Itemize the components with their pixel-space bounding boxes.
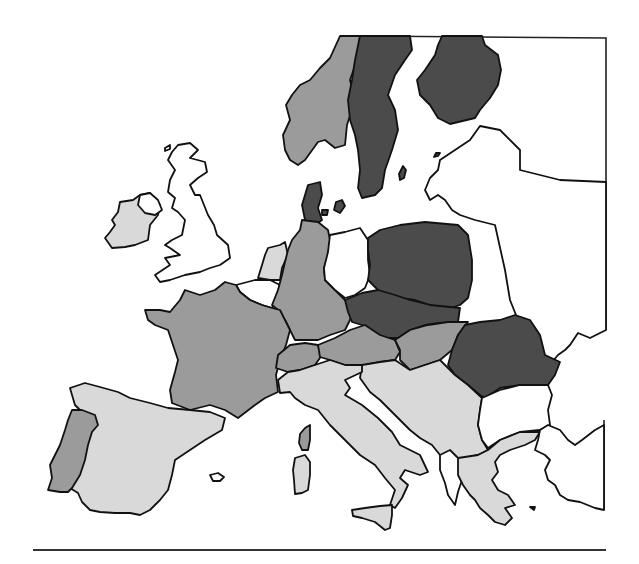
island-crete-fragment — [530, 507, 535, 510]
island-gotland — [399, 166, 406, 180]
country-denmark — [302, 182, 322, 225]
island-hebrides — [165, 145, 170, 151]
europe-choropleth-map — [0, 0, 639, 564]
country-finland — [417, 36, 501, 124]
island-funen — [322, 210, 328, 215]
country-united-kingdom — [155, 143, 230, 282]
island-mallorca — [210, 473, 224, 481]
island-corsica — [299, 425, 310, 450]
island-sicily — [352, 505, 392, 530]
country-turkey — [535, 425, 604, 510]
island-sardinia — [293, 455, 310, 494]
island-saaremaa — [434, 153, 440, 157]
island-zealand — [334, 200, 345, 213]
